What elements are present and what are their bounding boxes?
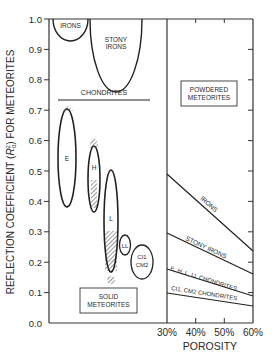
- x-tick-label: 30%: [157, 327, 177, 338]
- irons-label: IRONS: [60, 22, 81, 29]
- e-label: E: [65, 155, 70, 162]
- y-tick-label: 0.1: [29, 287, 42, 298]
- y-axis-labels: 0.0 0.1 0.2 0.3 0.4 0.5 0.6 0.7 0.8 0.9 …: [29, 14, 42, 329]
- svg-text:METEORITES: METEORITES: [87, 301, 130, 308]
- y-tick-label: 0.0: [29, 318, 42, 329]
- solid-panel: [53, 19, 153, 284]
- y-tick-label: 0.2: [29, 257, 42, 268]
- svg-text:POWDERED: POWDERED: [190, 86, 229, 93]
- series-label-irons: IRONS: [199, 195, 219, 214]
- y-tick-label: 0.6: [29, 135, 42, 146]
- powdered-meteorites-box: POWDERED METEORITES: [181, 81, 237, 106]
- x-tick-label: 50%: [214, 327, 234, 338]
- svg-text:CM2: CM2: [136, 262, 149, 268]
- svg-text:SOLID: SOLID: [99, 293, 119, 300]
- series-labels: IRONS STONY IRONS E, H, L, LL CHONDRITES…: [170, 195, 238, 302]
- chart: 0.0 0.1 0.2 0.3 0.4 0.5 0.6 0.7 0.8 0.9 …: [0, 0, 279, 357]
- h-label: H: [92, 164, 97, 171]
- x-axis-title: POROSITY: [183, 340, 237, 352]
- series-label-stony-irons: STONY IRONS: [185, 235, 229, 260]
- solid-meteorites-box: SOLID METEORITES: [80, 288, 137, 313]
- y-tick-label: 1.0: [29, 14, 42, 25]
- y-tick-label: 0.5: [29, 166, 42, 177]
- y-tick-label: 0.3: [29, 226, 42, 237]
- y-tick-label: 0.9: [29, 44, 42, 55]
- l-label: L: [109, 215, 113, 222]
- y-tick-label: 0.8: [29, 74, 42, 85]
- ll-label: LL: [122, 243, 129, 249]
- ci1-cm2-label: CI1: [137, 254, 147, 260]
- y-tick-label: 0.4: [29, 196, 42, 207]
- y-tick-label: 0.7: [29, 105, 42, 116]
- svg-text:METEORITES: METEORITES: [188, 94, 231, 101]
- plot-frame: [49, 19, 253, 323]
- x-tick-label: 60%: [243, 327, 263, 338]
- stony-irons-label: STONY: [105, 36, 128, 43]
- stony-irons-region: [90, 19, 142, 92]
- chondrites-label: CHONDRITES: [81, 89, 128, 96]
- y-axis-title: REFLECTION COEFFICIENT (R20) FOR METEORI…: [5, 49, 17, 294]
- x-tick-label: 40%: [186, 327, 206, 338]
- svg-text:IRONS: IRONS: [106, 43, 127, 50]
- x-axis-labels: 30% 40% 50% 60%: [157, 327, 263, 338]
